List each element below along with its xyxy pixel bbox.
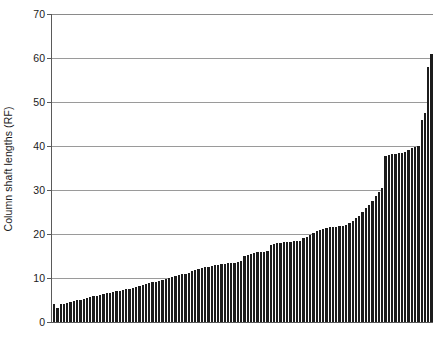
- bar-series: [53, 14, 433, 322]
- bar-chart: Column shaft lengths (RF) 01020304050607…: [0, 0, 441, 338]
- y-tick-mark-20: [47, 234, 52, 235]
- y-tick-label-20: 20: [33, 228, 45, 240]
- y-tick-mark-70: [47, 14, 52, 15]
- y-tick-label-60: 60: [33, 52, 45, 64]
- y-tick-label-0: 0: [39, 316, 45, 328]
- y-tick-label-50: 50: [33, 96, 45, 108]
- y-tick-label-40: 40: [33, 140, 45, 152]
- y-axis-title: Column shaft lengths (RF): [0, 0, 16, 338]
- plot-area: 010203040506070: [51, 14, 433, 323]
- bar: [430, 54, 433, 322]
- y-tick-mark-10: [47, 278, 52, 279]
- y-tick-mark-40: [47, 146, 52, 147]
- y-tick-mark-0: [47, 322, 52, 323]
- y-tick-label-10: 10: [33, 272, 45, 284]
- y-tick-mark-60: [47, 58, 52, 59]
- y-tick-label-30: 30: [33, 184, 45, 196]
- y-tick-label-70: 70: [33, 8, 45, 20]
- y-tick-mark-50: [47, 102, 52, 103]
- y-tick-mark-30: [47, 190, 52, 191]
